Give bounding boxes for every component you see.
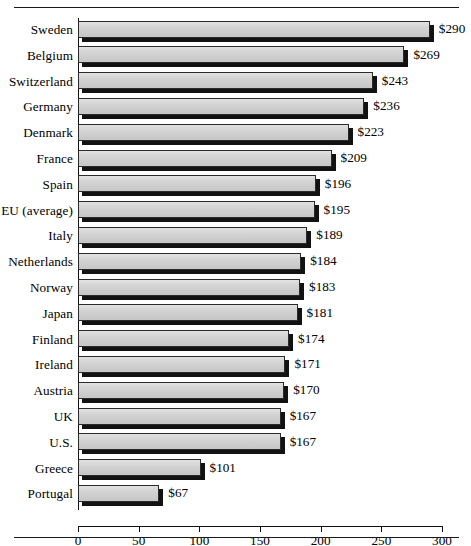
bar-value-label: $101: [210, 459, 236, 476]
bar-face: [78, 382, 284, 399]
bar-face: [78, 330, 289, 347]
bar: [78, 382, 284, 403]
bar-face: [78, 21, 430, 38]
category-label: Finland: [0, 331, 73, 348]
bar-row: Finland$174: [0, 328, 471, 354]
x-tick: [260, 526, 261, 532]
bar-row: Spain$196: [0, 173, 471, 199]
bar: [78, 98, 364, 119]
bar-face: [78, 46, 404, 63]
bar-face: [78, 485, 159, 502]
category-label: Netherlands: [0, 253, 73, 270]
bar: [78, 227, 307, 248]
bar-face: [78, 175, 316, 192]
bar-row: Norway$183: [0, 276, 471, 302]
category-label: U.S.: [0, 434, 73, 451]
x-tick-label: 250: [359, 533, 403, 546]
plot-area: Sweden$290Belgium$269Switzerland$243Germ…: [0, 16, 471, 510]
x-tick-label: 300: [420, 533, 464, 546]
bar-row: Germany$236: [0, 95, 471, 121]
bar-face: [78, 408, 281, 425]
category-label: Austria: [0, 382, 73, 399]
bar-face: [78, 150, 332, 167]
bar-value-label: $290: [439, 20, 465, 37]
bar-row: U.S.$167: [0, 431, 471, 457]
bar-face: [78, 98, 364, 115]
bar: [78, 356, 285, 377]
bar-value-label: $243: [382, 72, 408, 89]
bar-row: EU (average)$195: [0, 199, 471, 225]
bar-value-label: $223: [358, 123, 384, 140]
bar-value-label: $167: [290, 407, 316, 424]
bar: [78, 124, 349, 145]
x-tick: [381, 526, 382, 532]
bar: [78, 408, 281, 429]
bar: [78, 201, 315, 222]
category-label: Portugal: [0, 485, 73, 502]
bar: [78, 253, 301, 274]
bar: [78, 459, 201, 480]
bar-value-label: $67: [168, 484, 188, 501]
bar: [78, 72, 373, 93]
category-label: Norway: [0, 279, 73, 296]
x-tick: [78, 526, 79, 532]
bar-row: Sweden$290: [0, 18, 471, 44]
bar-face: [78, 279, 300, 296]
bar-face: [78, 227, 307, 244]
bar-face: [78, 201, 315, 218]
bar-chart-figure: Sweden$290Belgium$269Switzerland$243Germ…: [0, 0, 471, 546]
category-label: Greece: [0, 460, 73, 477]
x-tick: [199, 526, 200, 532]
bar-row: Austria$170: [0, 379, 471, 405]
bar-row: Greece$101: [0, 457, 471, 483]
bar: [78, 175, 316, 196]
bar-row: Ireland$171: [0, 353, 471, 379]
x-tick-label: 0: [56, 533, 100, 546]
category-label: Spain: [0, 176, 73, 193]
bar-value-label: $167: [290, 433, 316, 450]
x-tick: [139, 526, 140, 532]
category-label: Switzerland: [0, 73, 73, 90]
bar-value-label: $170: [293, 381, 319, 398]
bottom-divider-rule: [14, 537, 459, 538]
bar-value-label: $174: [298, 330, 324, 347]
bar-face: [78, 459, 201, 476]
x-tick-label: 150: [238, 533, 282, 546]
bar-value-label: $236: [373, 97, 399, 114]
category-label: Japan: [0, 305, 73, 322]
bar-row: Portugal$67: [0, 482, 471, 508]
bar-row: Japan$181: [0, 302, 471, 328]
x-tick: [321, 526, 322, 532]
bar-value-label: $181: [307, 304, 333, 321]
bar: [78, 304, 298, 325]
bar-row: Switzerland$243: [0, 70, 471, 96]
bar-row: Netherlands$184: [0, 250, 471, 276]
bar-value-label: $183: [309, 278, 335, 295]
category-label: Belgium: [0, 47, 73, 64]
bar-face: [78, 304, 298, 321]
category-label: Denmark: [0, 124, 73, 141]
bar-value-label: $189: [316, 226, 342, 243]
bar-value-label: $195: [324, 201, 350, 218]
x-tick-label: 100: [177, 533, 221, 546]
bar: [78, 46, 404, 67]
category-label: EU (average): [0, 202, 73, 219]
bar: [78, 279, 300, 300]
category-label: Italy: [0, 227, 73, 244]
bar: [78, 433, 281, 454]
bar: [78, 21, 430, 42]
bar-face: [78, 253, 301, 270]
bar: [78, 150, 332, 171]
category-label: France: [0, 150, 73, 167]
bar-row: France$209: [0, 147, 471, 173]
bar: [78, 330, 289, 351]
bar-row: UK$167: [0, 405, 471, 431]
bar-value-label: $209: [341, 149, 367, 166]
bar-value-label: $171: [294, 355, 320, 372]
category-label: UK: [0, 408, 73, 425]
bar-row: Denmark$223: [0, 121, 471, 147]
x-tick-label: 50: [117, 533, 161, 546]
bar-face: [78, 356, 285, 373]
bar-face: [78, 72, 373, 89]
x-tick-label: 200: [299, 533, 343, 546]
